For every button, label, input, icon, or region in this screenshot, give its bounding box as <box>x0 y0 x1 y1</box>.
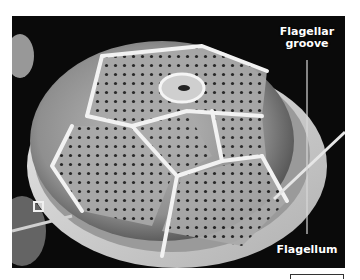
label-flagellar-groove: Flagellar groove <box>269 26 345 50</box>
scale-bar <box>290 274 344 279</box>
micrograph: Flagellar groove Flagellum <box>12 16 345 268</box>
label-flagellum: Flagellum <box>272 244 342 256</box>
dinoflagellate-illustration <box>12 16 345 268</box>
label-flagellar-groove-line2: groove <box>269 38 345 50</box>
